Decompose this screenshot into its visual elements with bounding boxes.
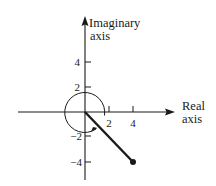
real-axis-arrow-icon (165, 109, 175, 116)
real-tick-label-4: 4 (130, 117, 136, 129)
imaginary-axis-label-line2: axis (90, 29, 110, 43)
imag-tick-label-neg4: −4 (70, 156, 82, 168)
imaginary-axis-arrow-icon (82, 16, 89, 26)
complex-point-marker (130, 159, 136, 165)
imag-tick-label-4: 4 (75, 56, 81, 68)
imaginary-axis (82, 16, 89, 180)
imag-tick-label-2: 2 (75, 81, 81, 93)
real-axis-ticks: 2 4 (106, 106, 136, 129)
real-axis-label-line1: Real (182, 99, 205, 113)
complex-plane-diagram: 2 4 4 2 −2 −4 Imaginary axis Real axis (0, 0, 216, 186)
real-tick-label-2: 2 (106, 117, 112, 129)
arc-arrow-icon (91, 127, 98, 132)
imaginary-axis-label-line1: Imaginary (89, 16, 141, 30)
real-axis (18, 109, 175, 116)
real-axis-label-line2: axis (182, 112, 202, 126)
